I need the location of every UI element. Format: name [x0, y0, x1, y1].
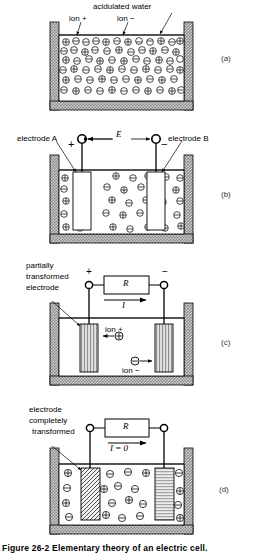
figure-electric-cell: acidulated water ion + ion − (a) electro… — [0, 0, 260, 560]
label-electrode-a: electrode A — [17, 134, 57, 143]
electrode-b-body — [147, 172, 165, 230]
label-electrode-c: electrode — [26, 283, 59, 292]
figure-caption: Figure 26-2 Elementary theory of an elec… — [2, 543, 258, 553]
label-resistor-c: R — [123, 279, 129, 288]
label-resistor-d: R — [123, 422, 129, 431]
label-ion-negative-a: ion − — [117, 14, 135, 23]
label-sign-positive-b: + — [68, 140, 74, 149]
electrode-left-transformed — [81, 468, 100, 520]
terminal-left-d — [86, 424, 93, 431]
label-sign-positive-c: + — [86, 267, 92, 276]
panel-tag-c: (c) — [221, 338, 230, 347]
terminal-a — [78, 135, 86, 143]
label-current-d: I = 0 — [110, 444, 128, 453]
label-acidulated-water: acidulated water — [93, 2, 151, 11]
label-ion-positive-a: ion + — [69, 14, 87, 23]
electrode-left-partial — [80, 324, 98, 372]
label-partially: partially — [26, 261, 54, 270]
panel-tag-a: (a) — [221, 54, 231, 63]
panel-tag-d: (d) — [219, 485, 229, 494]
label-sign-negative-c: − — [162, 267, 168, 276]
terminal-b — [152, 135, 160, 143]
label-transformed-d: transformed — [32, 427, 75, 436]
terminal-right-c — [160, 281, 167, 288]
terminal-right-d — [160, 424, 167, 431]
panel-b-diagram — [50, 135, 193, 243]
electrode-right-partial — [155, 324, 173, 372]
label-current-c: I — [122, 301, 125, 310]
panel-d-diagram — [50, 419, 193, 534]
panel-a-diagram — [50, 13, 193, 110]
label-completely: completely — [29, 416, 67, 425]
electrode-a-body — [73, 172, 91, 230]
label-ion-positive-c: ion + — [105, 325, 123, 334]
label-ion-negative-c: ion − — [122, 366, 140, 375]
label-electrode-d: electrode — [29, 405, 62, 414]
label-sign-negative-b: − — [161, 140, 167, 149]
terminal-left-c — [85, 281, 92, 288]
panel-tag-b: (b) — [221, 190, 231, 199]
label-emf-b: E — [116, 130, 122, 139]
label-electrode-b: electrode B — [168, 134, 208, 143]
label-transformed-c: transformed — [26, 272, 69, 281]
electrode-right-transformed — [155, 468, 174, 520]
